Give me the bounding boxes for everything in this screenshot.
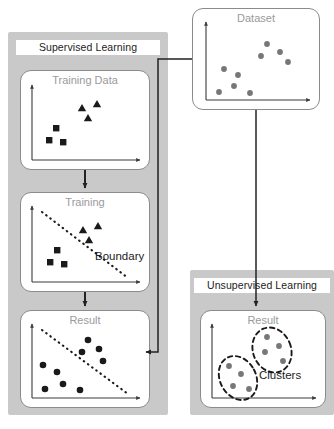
supervised-result-plot (32, 324, 140, 398)
dataset-points (216, 41, 291, 96)
dataset-plot (206, 22, 310, 100)
connector-dataset-to-supervised-result (146, 59, 192, 352)
diagram-canvas: Supervised Learning Unsupervised Learnin… (0, 0, 334, 429)
training-triangles (79, 222, 102, 243)
unsupervised-result-plot (211, 322, 316, 407)
supervised-result-points (40, 337, 107, 394)
cluster-lower-left-points (226, 363, 252, 392)
training-data-triangles (78, 100, 101, 121)
training-data-squares (46, 125, 66, 145)
training-boundary-line (42, 212, 128, 278)
cluster-upper-right-points (262, 334, 286, 364)
training-data-plot (32, 85, 140, 160)
training-plot (32, 206, 140, 282)
training-squares (47, 247, 67, 267)
diagram-vector-layer (0, 0, 334, 429)
